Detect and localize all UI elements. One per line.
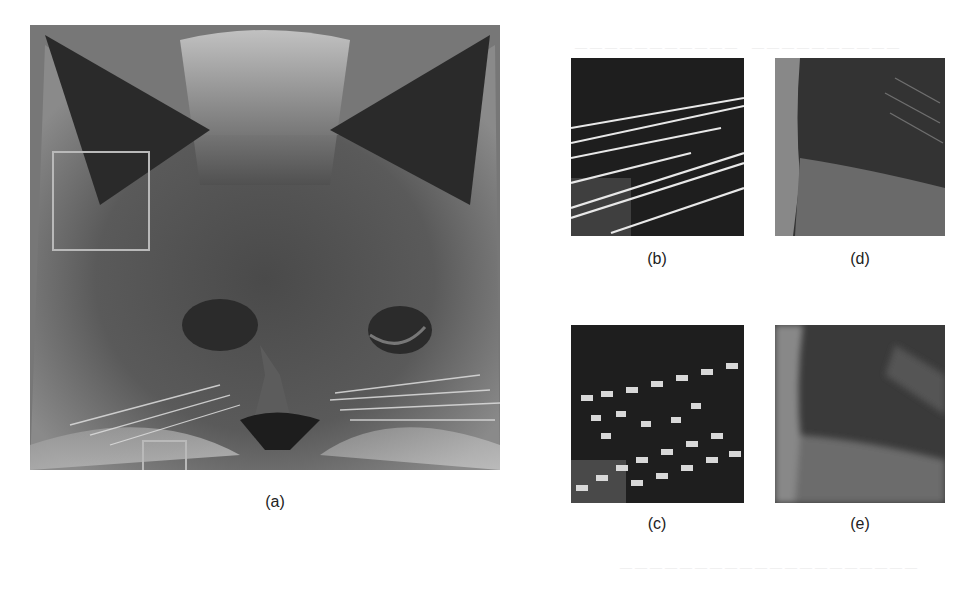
- whisker-zoom-pixelated: [571, 325, 744, 503]
- whisker-zoom-sharp: [571, 58, 744, 236]
- caption-d: (d): [820, 250, 900, 268]
- ear-zoom-sharp: [775, 58, 945, 236]
- caption-a: (a): [235, 493, 315, 511]
- bleed-through-text: — — — — — — — — — — — — — — — — — — — —: [620, 560, 917, 575]
- panel-e-image: [775, 325, 945, 503]
- caption-b: (b): [617, 250, 697, 268]
- caption-e: (e): [820, 515, 900, 533]
- panel-a-image: [30, 25, 500, 470]
- panel-d-image: [775, 58, 945, 236]
- ear-zoom-blurry: [775, 325, 945, 503]
- caption-c: (c): [617, 515, 697, 533]
- ear-region-box: [52, 151, 150, 251]
- panel-b-image: [571, 58, 744, 236]
- panel-c-image: [571, 325, 744, 503]
- whisker-region-box: [142, 440, 187, 470]
- bleed-through-text: — — — — — — — — — — — — — — — — — — — — …: [575, 40, 899, 55]
